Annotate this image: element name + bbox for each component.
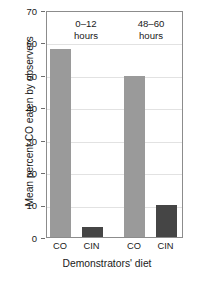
y-tick-mark-50 — [41, 76, 45, 77]
bar-group1-cin — [82, 227, 103, 237]
x-axis-title: Demonstrators' diet — [0, 258, 198, 269]
plot-area: 0–12 hours 48–60 hours — [46, 11, 183, 238]
y-tick-label-20: 20 — [26, 169, 37, 179]
group-header-line2: hours — [118, 30, 184, 42]
y-tick-label-0: 0 — [32, 234, 37, 244]
y-tick-mark-70 — [41, 11, 45, 12]
group-header-line2: hours — [53, 30, 119, 42]
y-tick-mark-0 — [41, 238, 45, 239]
x-tick-label-group1-cin: CIN — [77, 241, 106, 251]
y-tick-label-60: 60 — [26, 39, 37, 49]
bar-group1-co — [50, 49, 71, 237]
x-tick-label-group2-co: CO — [120, 241, 148, 251]
group-header-48-60-hours: 48–60 hours — [118, 18, 184, 41]
bar-chart-figure: Mean percent CO eaten by observers 70 60… — [0, 0, 198, 281]
y-tick-mark-40 — [41, 108, 45, 109]
group-header-line1: 0–12 — [53, 18, 119, 30]
x-tick-label-group2-cin: CIN — [151, 241, 180, 251]
y-tick-label-10: 10 — [26, 201, 37, 211]
bar-group2-cin — [156, 205, 177, 237]
group-header-0-12-hours: 0–12 hours — [53, 18, 119, 41]
y-tick-label-70: 70 — [26, 7, 37, 17]
y-tick-label-30: 30 — [26, 137, 37, 147]
y-tick-mark-60 — [41, 43, 45, 44]
y-tick-mark-10 — [41, 206, 45, 207]
y-tick-label-40: 40 — [26, 104, 37, 114]
bar-group2-co — [124, 76, 145, 237]
y-tick-label-50: 50 — [26, 72, 37, 82]
group-header-line1: 48–60 — [118, 18, 184, 30]
y-tick-mark-20 — [41, 173, 45, 174]
x-axis-ticks: CO CIN CO CIN — [46, 241, 183, 255]
gridline-60 — [47, 44, 182, 45]
y-axis-ticks: 70 60 50 40 30 20 10 0 — [0, 0, 44, 281]
y-tick-mark-30 — [41, 141, 45, 142]
x-tick-label-group1-co: CO — [46, 241, 74, 251]
